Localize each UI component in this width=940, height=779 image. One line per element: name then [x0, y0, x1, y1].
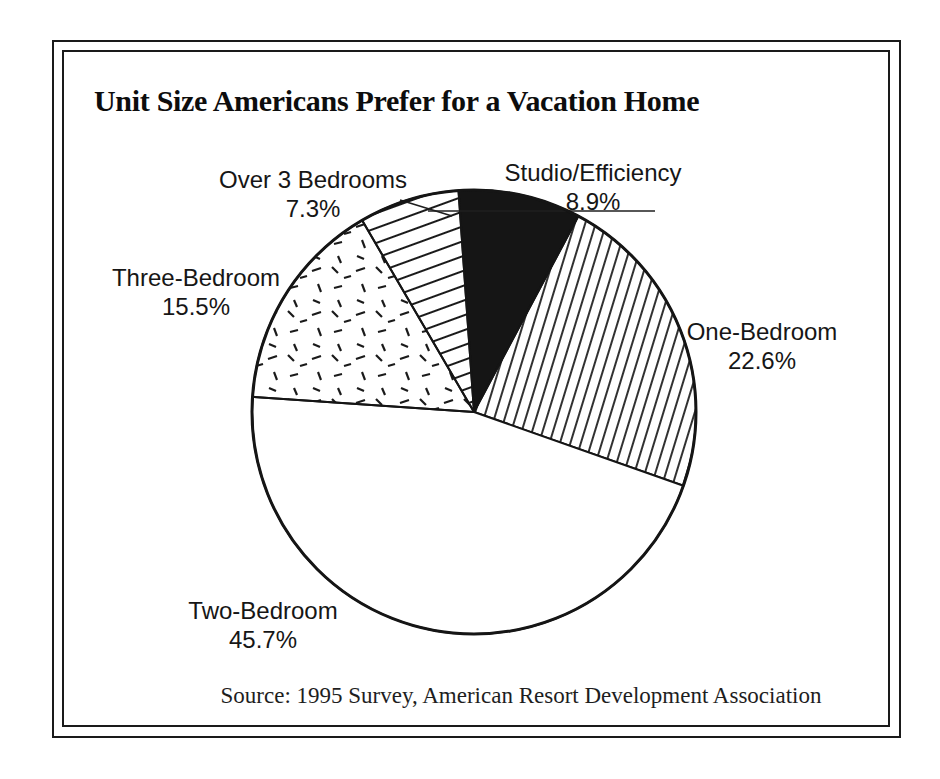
label-three-bedroom-name: Three-Bedroom [112, 263, 280, 292]
label-one-bedroom-pct: 22.6% [687, 346, 838, 375]
label-studio-efficiency: Studio/Efficiency 8.9% [505, 158, 682, 217]
label-two-bedroom-pct: 45.7% [188, 625, 337, 654]
label-over-3-bedrooms-pct: 7.3% [219, 194, 407, 223]
pie-chart [0, 0, 940, 779]
source-note: Source: 1995 Survey, American Resort Dev… [221, 683, 822, 709]
label-three-bedroom: Three-Bedroom 15.5% [112, 263, 280, 322]
label-two-bedroom: Two-Bedroom 45.7% [188, 596, 337, 655]
pie-slices-group [252, 190, 696, 634]
label-three-bedroom-pct: 15.5% [112, 292, 280, 321]
label-one-bedroom-name: One-Bedroom [687, 317, 838, 346]
label-two-bedroom-name: Two-Bedroom [188, 596, 337, 625]
label-one-bedroom: One-Bedroom 22.6% [687, 317, 838, 376]
label-over-3-bedrooms: Over 3 Bedrooms 7.3% [219, 165, 407, 224]
label-over-3-bedrooms-name: Over 3 Bedrooms [219, 165, 407, 194]
label-studio-efficiency-name: Studio/Efficiency [505, 158, 682, 187]
label-studio-efficiency-pct: 8.9% [505, 187, 682, 216]
